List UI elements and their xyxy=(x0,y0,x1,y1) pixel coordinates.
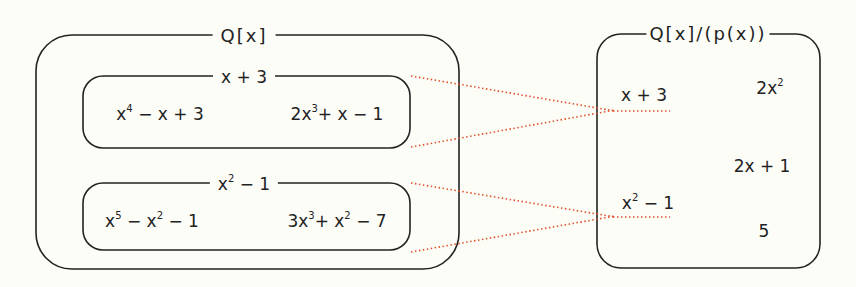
term: − x + 3 xyxy=(133,104,204,124)
class-member-3x3-plus-x2-minus-7: 3x3+ x2 − 7 xyxy=(287,213,386,230)
term: + x − 1 xyxy=(318,104,384,124)
term: − x xyxy=(122,211,157,231)
class-label-x2-minus-1: x2 − 1 xyxy=(210,176,278,193)
source-ring-title: Q[x] xyxy=(213,27,276,45)
quotient-element-2x2: 2x2 xyxy=(756,80,783,97)
term: x xyxy=(622,193,632,213)
term: − 7 xyxy=(351,211,387,231)
term: 3x xyxy=(287,211,308,231)
quotient-ring-box xyxy=(597,34,820,268)
quotient-element-2x-plus-1: 2x + 1 xyxy=(734,158,791,175)
term: 2x xyxy=(291,104,312,124)
term: − 1 xyxy=(163,211,199,231)
quotient-element-5: 5 xyxy=(759,223,770,240)
class-label-text: x + 3 xyxy=(221,67,267,87)
quotient-ring-title: Q[x]/(p(x)) xyxy=(646,25,769,43)
term: x xyxy=(116,104,126,124)
class-member-x4-minus-x-plus-3: x4 − x + 3 xyxy=(116,106,203,123)
term: + x xyxy=(315,211,345,231)
class-label-x-plus-3: x + 3 xyxy=(213,69,275,86)
term: x + 3 xyxy=(621,85,667,105)
exponent: 2 xyxy=(777,77,783,88)
term: 2x xyxy=(756,78,777,98)
term: 2x + 1 xyxy=(734,156,791,176)
class-member-x5-minus-x2-minus-1: x5 − x2 − 1 xyxy=(105,213,199,230)
label-base: x xyxy=(218,174,228,194)
term: − 1 xyxy=(638,193,674,213)
quotient-element-x-plus-3: x + 3 xyxy=(621,87,667,104)
quotient-element-x2-minus-1: x2 − 1 xyxy=(622,195,674,212)
term: x xyxy=(105,211,115,231)
quotient-ring-title-text: Q[x]/(p(x)) xyxy=(649,23,766,44)
label-tail: − 1 xyxy=(234,174,270,194)
class-member-2x3-plus-x-minus-1: 2x3+ x − 1 xyxy=(291,106,384,123)
source-ring-title-text: Q[x] xyxy=(221,25,268,46)
term: 5 xyxy=(759,221,770,241)
